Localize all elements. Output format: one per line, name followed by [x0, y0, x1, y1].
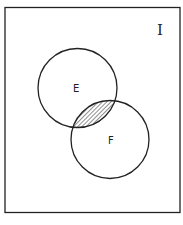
universe-label: I — [157, 21, 163, 39]
set-e-label: E — [73, 83, 79, 94]
set-f-label: F — [108, 135, 114, 146]
venn-diagram: I E F — [0, 0, 183, 225]
